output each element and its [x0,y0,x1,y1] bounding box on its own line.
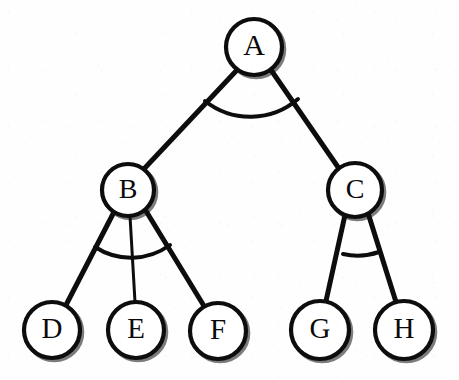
tree-diagram-svg: ABCDEFGH [0,0,459,380]
node-label: C [346,173,365,204]
node-label: A [243,28,265,61]
node-g[interactable]: G [291,301,351,361]
node-label: G [310,312,331,344]
node-c[interactable]: C [328,163,384,219]
node-f[interactable]: F [190,303,248,361]
tree-diagram-canvas: ABCDEFGH [0,0,459,380]
node-e[interactable]: E [108,302,166,360]
node-label: H [394,312,415,344]
node-label: D [42,312,63,344]
node-d[interactable]: D [24,302,82,360]
node-a[interactable]: A [226,19,284,77]
node-label: F [210,313,226,345]
node-h[interactable]: H [375,301,435,361]
node-label: E [127,312,145,344]
node-b[interactable]: B [102,164,156,218]
node-label: B [119,173,138,204]
